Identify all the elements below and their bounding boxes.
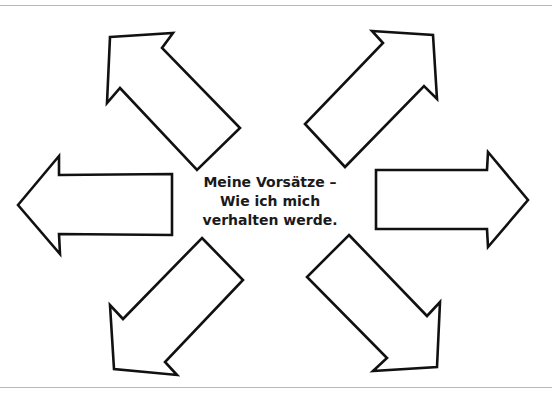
caption-line-1: Meine Vorsätze – [190, 173, 350, 192]
caption-line-2: Wie ich mich [190, 192, 350, 211]
arrow-upper-left-icon [107, 33, 240, 170]
caption-line-3: verhalten werde. [190, 211, 350, 230]
arrow-lower-left-icon [110, 238, 243, 375]
arrow-lower-right-icon [307, 235, 440, 371]
arrow-left-icon [18, 156, 172, 254]
arrow-right-icon [376, 152, 528, 247]
arrow-upper-right-icon [305, 31, 437, 167]
center-caption: Meine Vorsätze – Wie ich mich verhalten … [190, 173, 350, 230]
